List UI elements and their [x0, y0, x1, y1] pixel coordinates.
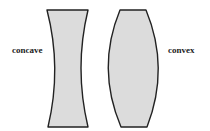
convex-lens: [108, 10, 158, 127]
concave-lens: [47, 10, 88, 127]
convex-label: convex: [168, 46, 195, 55]
lens-diagram: [0, 0, 210, 131]
concave-label: concave: [12, 46, 43, 55]
